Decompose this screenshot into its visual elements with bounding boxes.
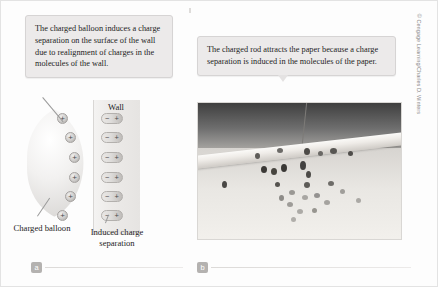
induced-charge-separation-label: Induced charge separation bbox=[89, 227, 145, 249]
wall-dipole: − + bbox=[101, 172, 123, 183]
balloon-charge: + bbox=[69, 152, 80, 163]
dipole-positive: + bbox=[115, 114, 119, 123]
dipole-positive: + bbox=[115, 192, 119, 201]
dipole-negative: − bbox=[105, 173, 109, 182]
paper-bit bbox=[300, 161, 306, 170]
callout-panel-b: The charged rod attracts the paper becau… bbox=[197, 36, 396, 76]
panel-rule-b bbox=[211, 267, 411, 268]
wall-dipole: − + bbox=[101, 210, 123, 221]
paper-bit bbox=[318, 151, 323, 156]
callout-b-tail bbox=[278, 75, 288, 82]
dipole-negative: − bbox=[105, 192, 109, 201]
callout-panel-a-text: The charged balloon induces a charge sep… bbox=[35, 23, 163, 70]
paper-bit bbox=[324, 200, 330, 205]
wall-dipole: − + bbox=[101, 191, 123, 202]
charged-balloon-label: Charged balloon bbox=[9, 223, 75, 234]
paper-bit bbox=[314, 193, 320, 198]
paper-bit bbox=[277, 148, 283, 153]
balloon-charge: + bbox=[65, 191, 76, 202]
balloon-charge: + bbox=[65, 132, 76, 143]
balloon-charge: + bbox=[69, 172, 80, 183]
dipole-positive: + bbox=[115, 153, 119, 162]
charged-rod-photograph bbox=[197, 102, 402, 240]
dipole-negative: − bbox=[105, 133, 109, 142]
dipole-negative: − bbox=[105, 153, 109, 162]
paper-bit bbox=[275, 182, 280, 187]
balloon-charge: + bbox=[57, 210, 68, 221]
panel-tag-a: a bbox=[31, 262, 42, 273]
paper-bit bbox=[304, 182, 310, 188]
paper-bit bbox=[312, 208, 317, 213]
paper-bit bbox=[306, 171, 311, 178]
paper-bit bbox=[348, 151, 353, 156]
photo-credit: © Cengage Learning/Charles D. Winters bbox=[416, 14, 422, 114]
callout-panel-b-text: The charged rod attracts the paper becau… bbox=[207, 44, 386, 68]
paper-bit bbox=[304, 148, 310, 155]
wall-dipole: − + bbox=[101, 152, 123, 163]
panel-tag-b: b bbox=[197, 262, 208, 273]
panel-rule-a bbox=[45, 267, 183, 268]
dipole-positive: + bbox=[115, 211, 119, 220]
physics-figure: + + + + + + Wall − + − + − + − + − + − + bbox=[0, 0, 438, 287]
paper-bit bbox=[340, 189, 345, 194]
wall-dipole: − + bbox=[101, 113, 123, 124]
paper-bit bbox=[328, 181, 334, 186]
dipole-positive: + bbox=[115, 173, 119, 182]
wall-dipole: − + bbox=[101, 132, 123, 143]
callout-panel-a: The charged balloon induces a charge sep… bbox=[25, 15, 173, 78]
paper-bit bbox=[330, 148, 337, 154]
wall-label: Wall bbox=[93, 102, 139, 112]
paper-bit bbox=[261, 166, 267, 173]
dipole-positive: + bbox=[115, 133, 119, 142]
dipole-negative: − bbox=[105, 114, 109, 123]
